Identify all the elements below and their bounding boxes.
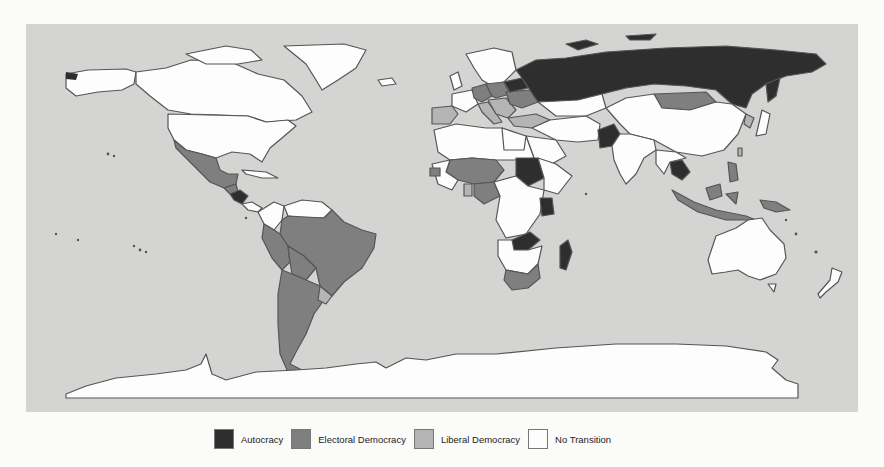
country-india <box>612 134 656 184</box>
no-transition-swatch <box>528 429 548 449</box>
country-indonesia <box>672 184 756 220</box>
country-iceland <box>378 78 396 86</box>
country-tasmania <box>768 284 776 292</box>
country-venezuela-guianas <box>284 200 332 218</box>
autocracy-swatch <box>214 429 234 449</box>
country-central-africa <box>494 176 544 238</box>
country-spain-portugal <box>432 106 458 124</box>
legend-label-electoral-democracy: Electoral Democracy <box>318 434 406 445</box>
country-ghana <box>464 184 472 196</box>
country-argentina-chile <box>278 270 324 372</box>
country-colombia <box>258 202 284 230</box>
arctic-islands <box>566 34 656 50</box>
legend-label-autocracy: Autocracy <box>241 434 283 445</box>
map-legend: Autocracy Electoral Democracy Liberal De… <box>214 429 619 449</box>
legend-item-autocracy: Autocracy <box>214 429 283 449</box>
country-uk <box>450 72 462 90</box>
central-america-south <box>242 202 262 212</box>
country-scandinavia <box>466 48 516 86</box>
country-alaska <box>66 69 136 96</box>
country-new-zealand <box>818 268 842 298</box>
country-papua-new-guinea <box>760 200 790 212</box>
liberal-democracy-swatch <box>414 429 434 449</box>
country-greenland <box>284 44 366 90</box>
country-australia <box>708 218 786 280</box>
country-thailand-cambodia <box>670 160 690 180</box>
world-map-panel <box>26 24 858 412</box>
country-japan <box>756 110 770 136</box>
continent-antarctica <box>66 344 798 398</box>
country-horn-of-africa <box>538 158 572 194</box>
country-philippines <box>728 162 738 182</box>
country-korea <box>744 114 754 128</box>
country-cuba <box>242 170 278 178</box>
electoral-democracy-swatch <box>291 429 311 449</box>
country-taiwan <box>738 148 742 156</box>
legend-item-electoral-democracy: Electoral Democracy <box>291 429 406 449</box>
country-madagascar <box>560 240 572 270</box>
legend-label-liberal-democracy: Liberal Democracy <box>441 434 520 445</box>
legend-label-no-transition: No Transition <box>555 434 611 445</box>
country-senegal <box>430 168 440 176</box>
country-tanzania-kenya <box>540 198 554 216</box>
world-map <box>26 24 858 412</box>
legend-item-no-transition: No Transition <box>528 429 611 449</box>
country-egypt <box>502 128 526 150</box>
legend-item-liberal-democracy: Liberal Democracy <box>414 429 520 449</box>
country-canada <box>136 60 312 122</box>
